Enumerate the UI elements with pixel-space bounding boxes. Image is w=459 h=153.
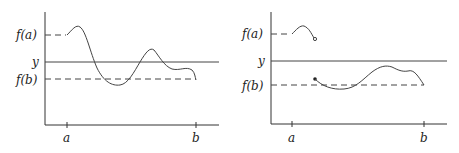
label-fb: f(b): [241, 79, 264, 93]
label-a: a: [288, 131, 295, 145]
label-b: b: [192, 131, 200, 145]
continuous-function-curve: [67, 26, 196, 85]
label-fa: f(a): [15, 28, 37, 42]
panel-discontinuous: f(a) y f(b) a b: [241, 12, 447, 145]
label-fa: f(a): [241, 27, 263, 41]
panel-continuous: f(a) y f(b) a b: [15, 12, 219, 145]
label-b: b: [420, 131, 428, 145]
function-curve-left-piece: [292, 26, 314, 38]
label-a: a: [63, 131, 70, 145]
label-y: y: [31, 55, 39, 69]
open-endpoint: [313, 37, 316, 40]
label-fb: f(b): [15, 73, 38, 87]
label-y: y: [257, 54, 265, 68]
ivt-diagram: f(a) y f(b) a b f(a) y f(b) a b: [0, 0, 459, 153]
function-curve-right-piece: [315, 66, 424, 89]
